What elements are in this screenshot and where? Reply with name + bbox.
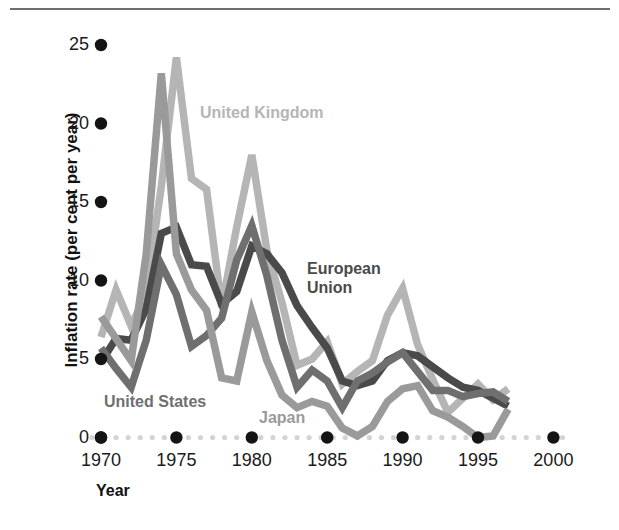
y-tick-label-0: 0 bbox=[49, 427, 89, 448]
x-tick-label-1995: 1995 bbox=[448, 450, 508, 471]
x-tick-label-2000: 2000 bbox=[523, 450, 583, 471]
y-tick-label-25: 25 bbox=[49, 34, 89, 55]
x-tick-label-1985: 1985 bbox=[297, 450, 357, 471]
x-tick-label-1990: 1990 bbox=[373, 450, 433, 471]
y-axis-title: Inflation rate (per cent per year) bbox=[62, 90, 82, 390]
x-axis-title: Year bbox=[96, 482, 130, 500]
x-tick-label-1970: 1970 bbox=[71, 450, 131, 471]
y-tick-label-10: 10 bbox=[49, 270, 89, 291]
chart-figure: Inflation rate (per cent per year) Year … bbox=[0, 0, 619, 530]
series-label-european-union: European Union bbox=[307, 259, 381, 297]
series-label-united-states: United States bbox=[104, 392, 206, 411]
y-tick-label-5: 5 bbox=[49, 348, 89, 369]
x-tick-label-1980: 1980 bbox=[222, 450, 282, 471]
y-tick-label-20: 20 bbox=[49, 113, 89, 134]
x-tick-label-1975: 1975 bbox=[146, 450, 206, 471]
series-label-japan: Japan bbox=[259, 408, 305, 427]
series-label-united-kingdom: United Kingdom bbox=[200, 103, 324, 122]
y-tick-label-15: 15 bbox=[49, 191, 89, 212]
